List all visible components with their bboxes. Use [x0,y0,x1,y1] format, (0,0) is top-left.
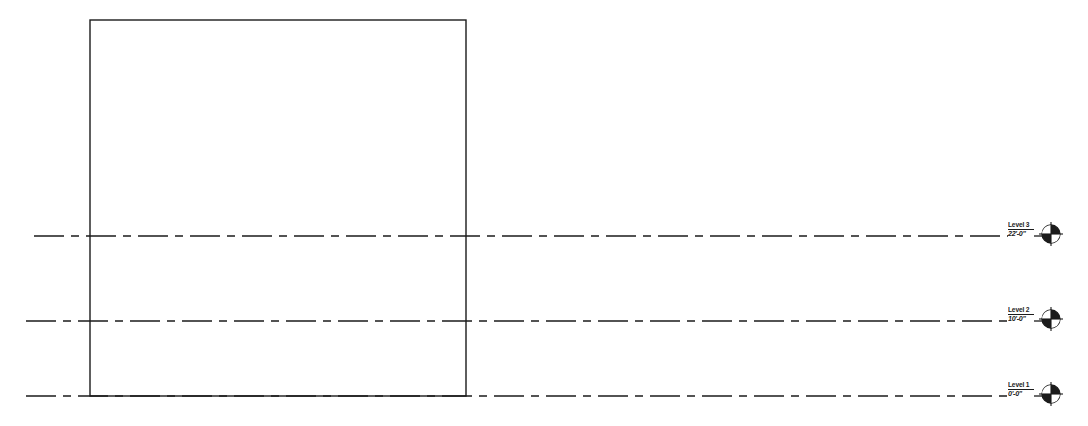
drawing-svg-root [0,0,1088,426]
level-head-marker-level-2[interactable] [1039,307,1063,331]
level-head-marker-level-3[interactable] [1039,222,1063,246]
level-head-marker-level-1[interactable] [1039,382,1063,406]
building-outline-rectangle[interactable] [90,20,466,396]
level-head-leaders [1034,236,1042,396]
elevation-drawing-canvas: Level 3 22'-0" Level 2 10'-0" Level 1 0'… [0,0,1088,426]
